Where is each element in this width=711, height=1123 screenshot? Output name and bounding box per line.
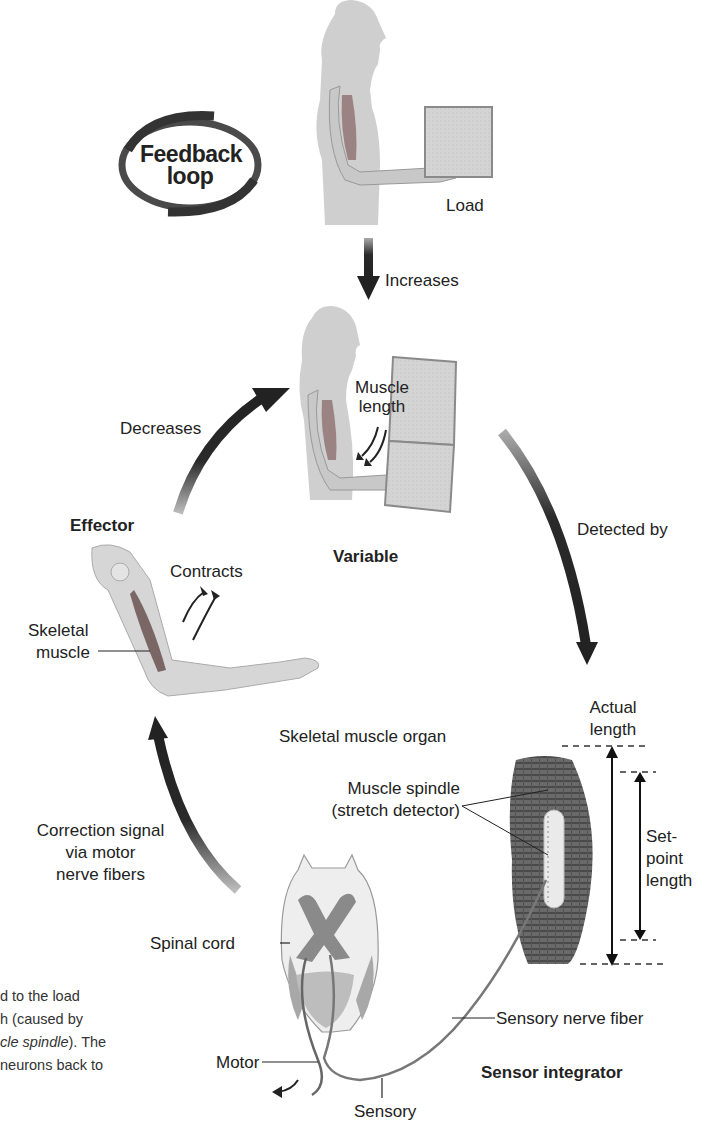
detected-by-label: Detected by (577, 519, 668, 540)
correction-line2: via motor (18, 842, 183, 864)
setpoint-line2: point (646, 848, 692, 870)
skeletal-line2: muscle (28, 642, 90, 664)
spindle-line1: Muscle spindle (300, 778, 460, 800)
skeletal-muscle-label: Skeletal muscle (28, 620, 90, 664)
set-point-length-label: Set- point length (646, 826, 692, 892)
increases-arrow-icon (357, 238, 380, 300)
muscle-length-line1: Muscle (342, 378, 422, 397)
muscle-length-line2: length (342, 397, 422, 416)
sensory-label: Sensory (354, 1101, 416, 1122)
contracts-label: Contracts (170, 561, 243, 582)
caption-line1: d to the load (0, 985, 106, 1008)
sensory-nerve-fiber-label: Sensory nerve fiber (496, 1008, 643, 1029)
motor-label: Motor (216, 1052, 259, 1073)
caption-line3: cle spindle). The (0, 1031, 106, 1054)
woman-holding-load-illustration (316, 0, 492, 225)
correction-line1: Correction signal (18, 820, 183, 842)
sensor-integrator-title: Sensor integrator (481, 1062, 623, 1083)
spindle-line2: (stretch detector) (300, 800, 460, 822)
correction-line3: nerve fibers (18, 864, 183, 886)
badge-line1: Feedback (140, 143, 240, 165)
actual-length-label: Actual length (570, 697, 656, 741)
caption-line3-italic: cle spindle (0, 1034, 69, 1050)
skeletal-muscle-organ-illustration (462, 746, 668, 966)
actual-line1: Actual (570, 697, 656, 719)
figure-caption-fragment: d to the load h (caused by cle spindle).… (0, 985, 106, 1077)
feedback-loop-badge: Feedback loop (140, 143, 240, 187)
decreases-arrow-icon (178, 388, 290, 513)
skeletal-muscle-organ-label: Skeletal muscle organ (279, 726, 446, 747)
detected-by-arrow-icon (502, 432, 598, 665)
decreases-label: Decreases (120, 418, 201, 439)
effector-title: Effector (70, 515, 134, 536)
actual-line2: length (570, 719, 656, 741)
setpoint-line3: length (646, 870, 692, 892)
caption-line4: neurons back to (0, 1054, 106, 1077)
muscle-length-label: Muscle length (342, 378, 422, 416)
caption-line3-rest: ). The (69, 1034, 107, 1050)
skeletal-line1: Skeletal (28, 620, 90, 642)
caption-line2: h (caused by (0, 1008, 106, 1031)
variable-title: Variable (333, 546, 398, 567)
setpoint-line1: Set- (646, 826, 692, 848)
load-label: Load (446, 195, 484, 216)
muscle-spindle-label: Muscle spindle (stretch detector) (300, 778, 460, 822)
spinal-cord-label: Spinal cord (150, 933, 235, 954)
increases-label: Increases (385, 270, 459, 291)
correction-signal-label: Correction signal via motor nerve fibers (18, 820, 183, 886)
badge-line2: loop (140, 165, 240, 187)
